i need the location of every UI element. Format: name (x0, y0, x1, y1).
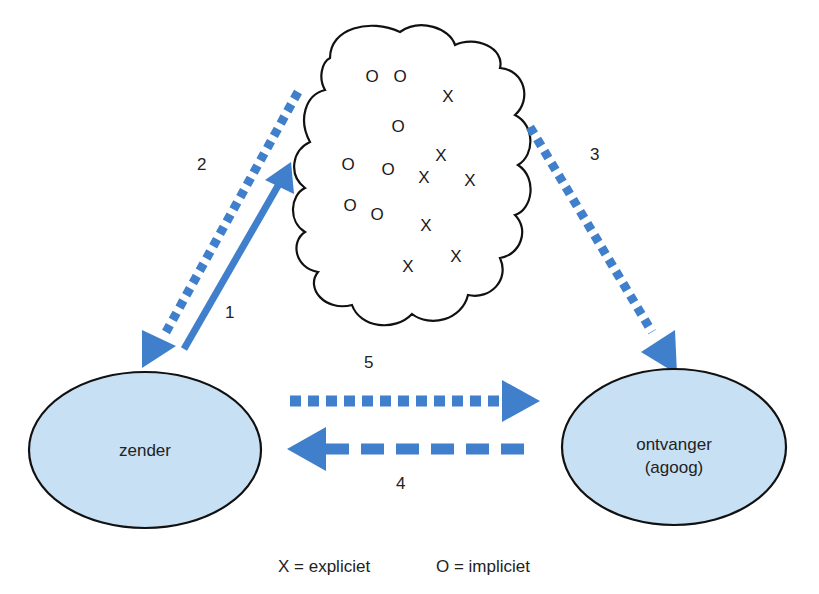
implicit-mark: O (370, 205, 383, 224)
node-ontvanger: ontvanger (agoog) (562, 369, 786, 525)
implicit-mark: O (381, 160, 394, 179)
arrow-label-1: 1 (225, 303, 234, 322)
node-ontvanger-label-line1: ontvanger (636, 435, 712, 454)
explicit-mark: X (420, 216, 431, 235)
node-zender-label: zender (119, 441, 171, 460)
explicit-mark: X (442, 87, 453, 106)
arrowhead-right-icon (502, 380, 540, 422)
arrow-label-2: 2 (197, 155, 206, 174)
arrow-4 (287, 427, 527, 471)
explicit-mark: X (418, 168, 429, 187)
implicit-mark: O (391, 117, 404, 136)
communication-diagram: OOXOXOOXXOOXXX 1 2 3 5 4 zender ontvange… (0, 0, 819, 594)
arrow-label-3: 3 (590, 145, 599, 164)
arrow-5 (290, 380, 540, 422)
implicit-mark: O (341, 155, 354, 174)
arrowhead-left-icon (287, 427, 326, 471)
arrowhead-down-icon (142, 330, 176, 368)
arrow-label-4: 4 (396, 474, 405, 493)
cloud-shape (293, 25, 531, 325)
legend-explicit: X = expliciet (278, 557, 370, 576)
arrowhead-down-icon (641, 330, 677, 374)
explicit-mark: X (435, 146, 446, 165)
arrow-2 (142, 92, 298, 368)
node-ontvanger-label-line2: (agoog) (645, 458, 704, 477)
arrow-label-5: 5 (364, 353, 373, 372)
explicit-mark: X (402, 257, 413, 276)
node-zender: zender (29, 372, 261, 528)
implicit-mark: O (393, 67, 406, 86)
explicit-mark: X (464, 171, 475, 190)
arrow-3 (530, 127, 677, 374)
implicit-mark: O (365, 67, 378, 86)
implicit-mark: O (343, 196, 356, 215)
explicit-mark: X (450, 247, 461, 266)
legend-implicit: O = impliciet (436, 557, 530, 576)
